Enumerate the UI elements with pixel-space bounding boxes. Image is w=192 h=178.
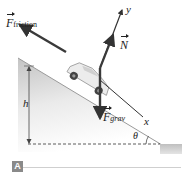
- gravity-label: Fgrav: [103, 111, 125, 123]
- panel-label-badge: A: [12, 161, 23, 172]
- normal-symbol: N: [120, 39, 128, 51]
- x-axis-label: x: [144, 116, 149, 127]
- angle-label: θ: [133, 131, 138, 141]
- normal-label: N: [120, 39, 128, 51]
- y-axis-label: y: [126, 4, 131, 15]
- friction-force-arrow: [20, 25, 66, 52]
- height-label: h: [23, 98, 29, 109]
- friction-subscript: friction: [13, 20, 37, 29]
- gravity-symbol: F: [103, 111, 110, 123]
- flat-ground: [160, 144, 182, 154]
- caption-divider: [23, 167, 181, 168]
- normal-force-arrow: [100, 35, 113, 68]
- friction-label: Ffriction: [6, 17, 37, 29]
- friction-symbol: F: [6, 17, 13, 29]
- gravity-subscript: grav: [110, 114, 125, 123]
- incline-diagram: Ffriction y N Fgrav x h θ A: [0, 0, 192, 178]
